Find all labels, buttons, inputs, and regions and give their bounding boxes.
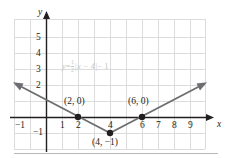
equation-abs-expression: |x − 4| (75, 61, 98, 71)
y-tick-5: 5 (36, 33, 41, 43)
y-axis-name: y (38, 8, 42, 18)
y-tick-3: 3 (36, 65, 41, 75)
x-tick-4: 4 (108, 121, 113, 131)
x-tick-7: 7 (156, 121, 161, 131)
equation-annotation: y=12|x − 4|− 1 (62, 59, 108, 73)
x-tick-9: 9 (188, 121, 193, 131)
y-tick-4: 4 (36, 49, 41, 59)
absolute-value-graph-figure: y=12|x − 4|− 1 y x 5 4 3 2 −1 −1 1 2 4 6… (0, 0, 230, 158)
equation-constant: − 1 (97, 61, 108, 71)
x-tick-6: 6 (140, 121, 145, 131)
x-tick-8: 8 (172, 121, 177, 131)
point-label-4-neg1: (4, −1) (92, 138, 118, 148)
y-tick-2: 2 (36, 81, 41, 91)
x-tick-neg1: −1 (15, 121, 25, 131)
x-tick-2: 2 (76, 121, 81, 131)
x-axis-name: x (217, 120, 221, 130)
point-4-neg1 (107, 130, 113, 136)
point-label-6-0: (6, 0) (128, 97, 149, 107)
x-tick-1: 1 (60, 121, 65, 131)
equation-equals: = (66, 61, 71, 71)
point-label-2-0: (2, 0) (64, 97, 85, 107)
y-axis (43, 11, 50, 152)
y-tick-neg1: −1 (33, 128, 43, 138)
